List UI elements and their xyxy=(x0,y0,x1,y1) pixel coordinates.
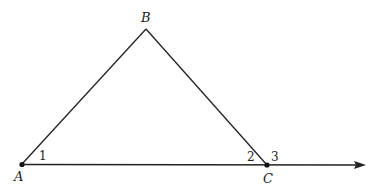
segment-bc xyxy=(146,29,267,165)
label-c: C xyxy=(263,171,273,186)
angle-label-2: 2 xyxy=(247,150,255,164)
label-a: A xyxy=(13,169,23,184)
angle-label-1: 1 xyxy=(39,149,47,163)
angle-label-3: 3 xyxy=(271,150,279,164)
label-b: B xyxy=(140,10,151,25)
ray-ac xyxy=(22,165,358,166)
triangle-diagram: B A C 1 2 3 xyxy=(0,0,382,192)
point-a xyxy=(19,162,24,167)
segment-ab xyxy=(22,29,146,164)
point-c xyxy=(264,162,269,167)
